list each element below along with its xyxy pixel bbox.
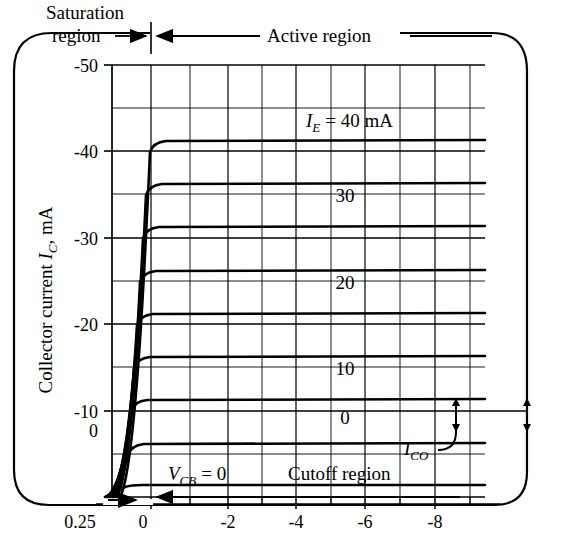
curve-label-20: 20 — [336, 272, 355, 293]
curve-label-0: 0 — [340, 407, 350, 428]
svg-text:Collector current IC, mA: Collector current IC, mA — [35, 206, 60, 393]
curve-ie-35 — [117, 183, 485, 497]
y-axis-ticks — [104, 65, 112, 411]
ico-leader-curve — [438, 432, 456, 450]
y-tick-label-30: -30 — [74, 229, 98, 249]
y-tick-label-20: -20 — [74, 315, 98, 335]
saturation-region-label-line1: Saturation — [46, 2, 125, 23]
curve-label-ie-40-group: IE= 40 mA — [305, 110, 393, 135]
y-tick-label-10: -10 — [74, 402, 98, 422]
curve-label-ie-value: = 40 mA — [325, 110, 393, 131]
cutoff-region-label: Cutoff region — [288, 463, 391, 484]
grid-horizontal — [112, 65, 485, 497]
y-tick-label-50: -50 — [74, 56, 98, 76]
curve-ie-30 — [115, 226, 485, 497]
y-axis-title: Collector current IC, mA — [35, 206, 60, 393]
curve-label-ie-subscript: E — [311, 120, 320, 135]
x-tick-label-4: -4 — [289, 512, 304, 532]
ico-double-arrow-outer — [523, 398, 531, 432]
x-axis-ticks — [151, 497, 470, 509]
curve-label-30: 30 — [336, 185, 355, 206]
ico-label: ICO — [403, 438, 429, 463]
x-tick-label-6: -6 — [358, 512, 373, 532]
ico-subscript: CO — [410, 448, 429, 463]
curve-label-10: 10 — [336, 358, 355, 379]
x-tick-label-025: 0.25 — [64, 512, 96, 532]
saturation-region-label-line2: region — [52, 25, 101, 46]
y-axis-title-post: , mA — [35, 206, 56, 244]
curve-ie-0 — [105, 485, 485, 497]
x-tick-label-0: 0 — [139, 512, 148, 532]
y-axis-title-pre: Collector current — [35, 259, 56, 393]
transistor-output-characteristics-figure: Saturation region Active region — [0, 0, 574, 538]
ico-double-arrow-inner — [452, 398, 460, 432]
vcb-subscript: CB — [180, 473, 197, 488]
y-axis-title-subscript: C — [45, 244, 60, 253]
active-region-label: Active region — [267, 25, 371, 46]
chart-svg: Saturation region Active region — [0, 0, 574, 538]
x-tick-label-8: -8 — [428, 512, 443, 532]
vcb-equals: = 0 — [201, 463, 226, 484]
y-tick-label-0: 0 — [89, 421, 98, 441]
y-tick-label-40: -40 — [74, 142, 98, 162]
x-tick-label-2: -2 — [221, 512, 236, 532]
